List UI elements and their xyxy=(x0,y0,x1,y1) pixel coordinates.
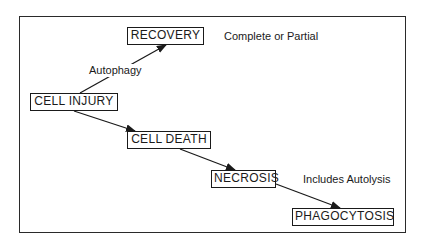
node-cell-injury: CELL INJURY xyxy=(30,93,118,111)
arrow-necrosis-to-phagocytosis xyxy=(276,184,340,208)
node-recovery: RECOVERY xyxy=(127,27,204,45)
node-cell-death: CELL DEATH xyxy=(127,131,211,149)
necrosis-note: Includes Autolysis xyxy=(303,173,390,186)
arrow-injury-to-death xyxy=(74,111,135,131)
edge-label-autophagy: Autophagy xyxy=(88,64,143,77)
arrow-death-to-necrosis xyxy=(180,149,235,170)
node-phagocytosis: PHAGOCYTOSIS xyxy=(292,208,394,226)
node-necrosis: NECROSIS xyxy=(211,170,276,188)
recovery-note: Complete or Partial xyxy=(224,30,318,43)
